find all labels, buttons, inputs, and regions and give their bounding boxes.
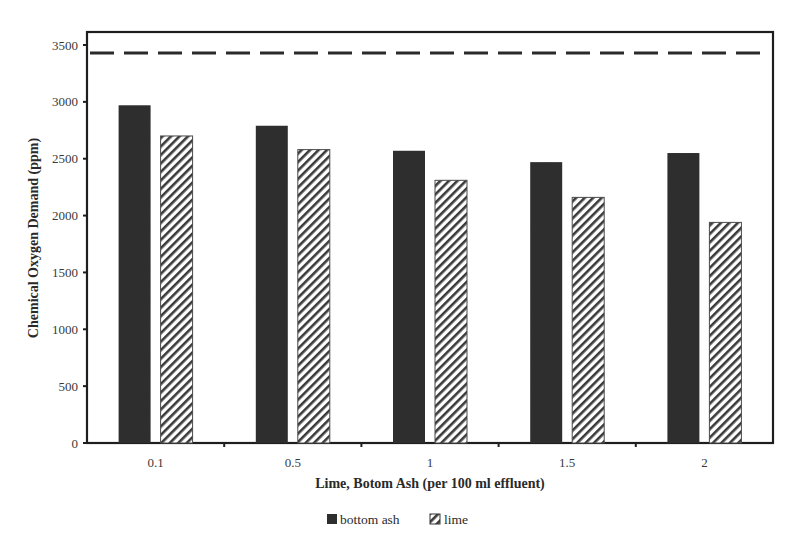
legend-label-bottom-ash: bottom ash <box>340 512 400 527</box>
x-tick-label: 0.1 <box>147 455 163 470</box>
x-tick-label: 2 <box>701 455 708 470</box>
legend-swatch-lime <box>430 514 440 524</box>
chart: 0500100015002000250030003500 0.10.511.52… <box>0 0 797 556</box>
y-tick-label: 1500 <box>52 265 78 280</box>
bar-lime-2 <box>709 222 741 443</box>
y-tick-label: 1000 <box>52 322 78 337</box>
bar-lime-0.5 <box>298 150 330 443</box>
x-axis-title: Lime, Botom Ash (per 100 ml effluent) <box>315 476 545 492</box>
x-tick-label: 0.5 <box>285 455 301 470</box>
x-tick-label: 1.5 <box>559 455 575 470</box>
bar-bottom-ash-1 <box>393 151 425 443</box>
bars <box>119 105 742 443</box>
bar-bottom-ash-2 <box>667 153 699 443</box>
bar-bottom-ash-1.5 <box>530 162 562 443</box>
bar-bottom-ash-0.5 <box>256 126 288 443</box>
legend-swatch-bottom-ash <box>327 514 337 524</box>
legend: bottom ash lime <box>327 512 468 527</box>
y-tick-label: 3500 <box>52 38 78 53</box>
y-tick-label: 2000 <box>52 208 78 223</box>
y-axis-title: Chemical Oxygen Demand (ppm) <box>26 138 42 339</box>
bar-lime-1.5 <box>572 197 604 443</box>
bar-bottom-ash-0.1 <box>119 105 151 443</box>
y-tick-label: 500 <box>59 379 79 394</box>
y-tick-label: 2500 <box>52 151 78 166</box>
x-tick-label: 1 <box>427 455 434 470</box>
y-axis: 0500100015002000250030003500 <box>52 38 87 451</box>
bar-lime-0.1 <box>161 136 193 443</box>
x-axis: 0.10.511.52 <box>147 443 707 470</box>
bar-lime-1 <box>435 180 467 443</box>
y-tick-label: 3000 <box>52 94 78 109</box>
legend-label-lime: lime <box>444 512 468 527</box>
y-tick-label: 0 <box>72 436 79 451</box>
